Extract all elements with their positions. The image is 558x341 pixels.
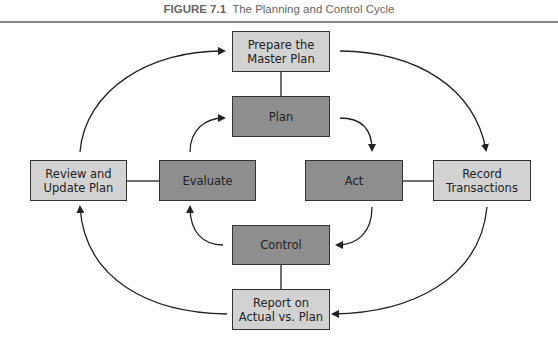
box-review-update-plan: Review and Update Plan [30, 160, 127, 201]
box-report-actual-vs-plan: Report on Actual vs. Plan [232, 289, 330, 330]
box-act: Act [305, 160, 403, 201]
box-plan: Plan [232, 96, 330, 137]
box-evaluate: Evaluate [159, 160, 256, 201]
figure: FIGURE 7.1The Planning and Control Cycle [0, 0, 558, 341]
arrow-plan-to-act [340, 118, 372, 150]
box-control: Control [232, 225, 330, 265]
arrow-record-to-report [333, 207, 487, 314]
arrow-control-to-evaluate [190, 207, 223, 245]
arrow-prepare-to-record [340, 51, 486, 150]
box-record-transactions: Record Transactions [433, 160, 531, 201]
arrow-evaluate-to-plan [190, 118, 224, 152]
arrow-review-to-prepare [80, 51, 224, 152]
box-prepare-master-plan: Prepare the Master Plan [232, 31, 330, 72]
arrow-report-to-review [80, 207, 227, 314]
arrow-act-to-control [337, 207, 372, 245]
